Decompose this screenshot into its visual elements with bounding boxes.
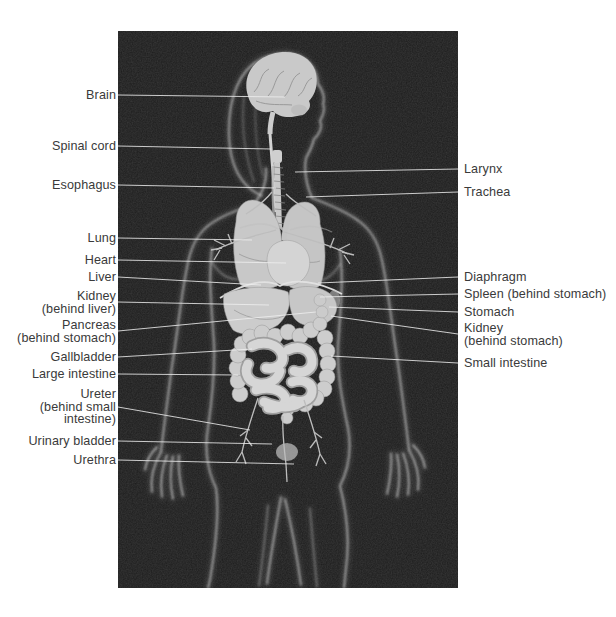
label-liver: Liver (0, 271, 116, 284)
label-ureter-behind-small-intestine: Ureter (behind small intestine) (0, 388, 116, 426)
label-larynx: Larynx (464, 163, 614, 176)
label-gallbladder: Gallbladder (0, 351, 116, 364)
label-kidney-behind-stomach: Kidney (behind stomach) (464, 322, 614, 347)
label-esophagus: Esophagus (0, 179, 116, 192)
anatomy-diagram-page: BrainSpinal cordEsophagusLungHeartLiverK… (0, 0, 616, 617)
label-kidney-behind-liver: Kidney (behind liver) (0, 290, 116, 315)
label-trachea: Trachea (464, 186, 614, 199)
label-stomach: Stomach (464, 306, 614, 319)
label-spleen-behind-stomach: Spleen (behind stomach) (464, 288, 614, 301)
label-small-intestine: Small intestine (464, 357, 614, 370)
label-diaphragm: Diaphragm (464, 271, 614, 284)
label-spinal-cord: Spinal cord (0, 140, 116, 153)
label-brain: Brain (0, 89, 116, 102)
label-lung: Lung (0, 232, 116, 245)
label-heart: Heart (0, 254, 116, 267)
urinary-bladder-shape (276, 443, 298, 461)
label-large-intestine: Large intestine (0, 368, 116, 381)
label-urinary-bladder: Urinary bladder (0, 435, 116, 448)
label-pancreas-behind-stomach: Pancreas (behind stomach) (0, 319, 116, 344)
label-urethra: Urethra (0, 454, 116, 467)
